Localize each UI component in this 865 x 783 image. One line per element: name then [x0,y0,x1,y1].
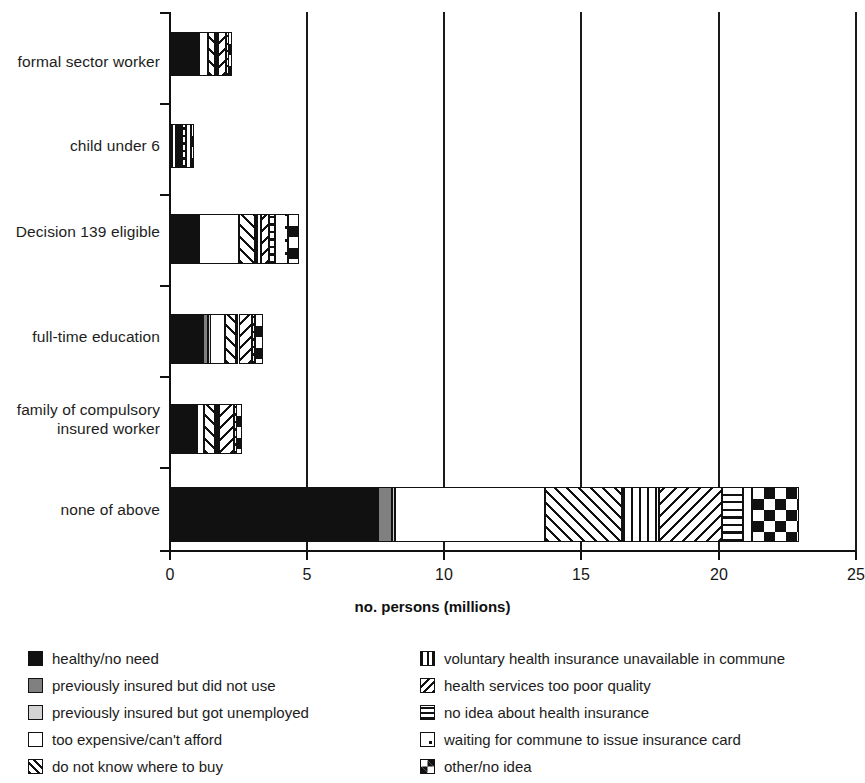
bar-segment-white [199,214,239,264]
bar-segment-solid-black [170,487,378,542]
legend-swatch-white-icon [28,732,43,747]
gridline-10 [443,12,445,552]
x-axis-tick-label-10: 10 [424,566,464,584]
legend-item[interactable]: no idea about health insurance [420,699,865,726]
bar-segment-dotted [743,487,753,542]
legend-column-right: voluntary health insurance unavailable i… [420,645,865,780]
category-label-child-under-6: child under 6 [0,136,160,155]
bar-segment-checkerboard [236,404,241,454]
bar-segment-diagonal-up-hatch [208,32,215,76]
chart-legend: healthy/no needpreviously insured but di… [0,645,865,783]
gridline-5 [306,12,308,552]
bar-segment-white [395,487,546,542]
legend-swatch-diagonal-down-hatch-icon [420,678,435,693]
legend-item-label: too expensive/can't afford [52,731,222,748]
bar-segment-diagonal-up-hatch [239,214,255,264]
gridline-20 [718,12,720,552]
legend-item[interactable]: do not know where to buy [28,753,448,780]
legend-item-label: previously insured but did not use [52,677,275,694]
bar-segment-solid-black [170,404,196,454]
bar-full-time-education [170,314,263,364]
legend-item-label: no idea about health insurance [444,704,649,721]
x-axis-tick-20 [718,551,720,560]
bar-segment-checkerboard [752,487,799,542]
legend-item[interactable]: other/no idea [420,753,865,780]
bar-segment-diagonal-up-hatch [225,314,236,364]
bar-segment-solid-black [170,32,197,76]
bar-segment-diagonal-down-hatch [218,32,226,76]
gridline-25 [855,12,857,552]
bar-segment-dotted [275,214,289,264]
legend-item[interactable]: health services too poor quality [420,672,865,699]
legend-item-label: previously insured but got unemployed [52,704,309,721]
legend-swatch-solid-black-icon [28,651,43,666]
legend-swatch-vertical-lines-icon [420,651,435,666]
bar-segment-solid-black [170,214,197,264]
y-axis-tick [160,467,170,469]
y-axis-tick [160,12,170,14]
legend-swatch-light-gray-icon [28,705,43,720]
bar-segment-diagonal-down-hatch [239,314,253,364]
bar-segment-diagonal-up-hatch [204,404,215,454]
legend-item[interactable]: waiting for commune to issue insurance c… [420,726,865,753]
legend-item-label: voluntary health insurance unavailable i… [444,650,785,667]
bar-segment-checkerboard [191,124,194,168]
legend-swatch-horizontal-lines-icon [420,705,435,720]
y-axis-spine [169,12,171,552]
bar-segment-diagonal-down-hatch [219,404,234,454]
x-axis-tick-15 [580,551,582,560]
x-axis-tick-label-25: 25 [836,566,865,584]
bar-segment-horizontal-lines [722,487,743,542]
category-label-none-of-above: none of above [0,500,160,519]
legend-item[interactable]: previously insured but got unemployed [28,699,448,726]
x-axis-tick-25 [855,551,857,560]
gridline-15 [580,12,582,552]
bar-segment-checkerboard [288,214,299,264]
bar-segment-checkerboard [255,314,263,364]
stacked-bar-chart: formal sector worker child under 6 Decis… [0,0,865,640]
y-axis-tick [160,376,170,378]
bar-segment-solid-black [170,314,203,364]
bar-segment-diagonal-up-hatch [545,487,622,542]
legend-item[interactable]: too expensive/can't afford [28,726,448,753]
legend-swatch-dotted-icon [420,732,435,747]
category-label-full-time-education: full-time education [0,327,160,346]
bar-segment-white [199,32,209,76]
legend-item[interactable]: healthy/no need [28,645,448,672]
category-label-family-of-compulsory-insured-worker: family of compulsory insured worker [0,400,160,438]
bar-segment-diagonal-down-hatch [659,487,722,542]
legend-column-left: healthy/no needpreviously insured but di… [28,645,448,780]
y-axis-tick [160,285,170,287]
bar-none-of-above [170,487,799,542]
legend-swatch-dark-gray-icon [28,678,43,693]
x-axis-tick-label-0: 0 [150,566,190,584]
bar-segment-diagonal-down-hatch [261,214,269,264]
x-axis-tick-label-15: 15 [561,566,601,584]
legend-item[interactable]: previously insured but did not use [28,672,448,699]
legend-item-label: health services too poor quality [444,677,651,694]
x-axis-tick-0 [169,551,171,560]
bar-segment-vertical-lines [622,487,659,542]
legend-item-label: waiting for commune to issue insurance c… [444,731,741,748]
category-label-formal-sector-worker: formal sector worker [0,52,160,71]
x-axis-spine [169,550,857,552]
bar-decision-139-eligible [170,214,299,264]
legend-item[interactable]: voluntary health insurance unavailable i… [420,645,865,672]
bar-child-under-6 [170,124,193,168]
y-axis-tick [160,194,170,196]
bar-segment-dark-gray [378,487,392,542]
x-axis-title: no. persons (millions) [0,598,865,615]
legend-swatch-checkerboard-icon [420,759,435,774]
bar-formal-sector-worker [170,32,232,76]
x-axis-tick-label-20: 20 [699,566,739,584]
bar-family-of-compulsory-insured-worker [170,404,242,454]
x-axis-tick-5 [306,551,308,560]
y-axis-tick [160,103,170,105]
x-axis-tick-10 [443,551,445,560]
legend-item-label: other/no idea [444,758,532,775]
legend-item-label: do not know where to buy [52,758,223,775]
bar-segment-white [210,314,225,364]
x-axis-tick-label-5: 5 [287,566,327,584]
legend-item-label: healthy/no need [52,650,159,667]
bar-segment-white [197,404,204,454]
